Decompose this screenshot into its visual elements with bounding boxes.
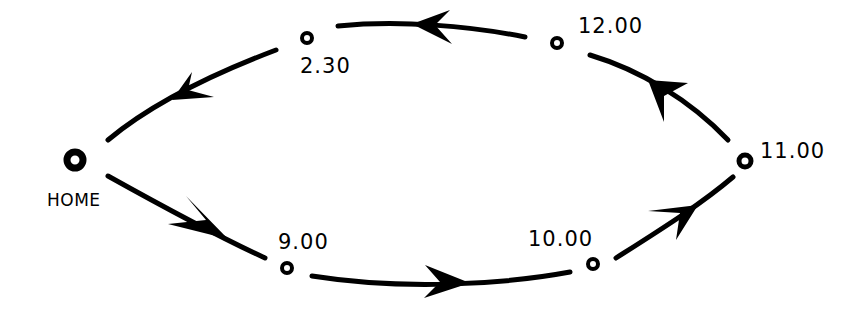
- label-230: 2.30: [300, 56, 351, 77]
- arrow-icon-900-to-1000: [424, 265, 470, 298]
- node-1100-icon: [739, 155, 751, 167]
- node-1200-icon: [552, 38, 562, 48]
- node-900-icon: [282, 263, 292, 273]
- edges: [108, 10, 733, 298]
- label-1100: 11.00: [760, 141, 825, 162]
- label-1200: 12.00: [578, 16, 643, 37]
- route-diagram: [0, 0, 860, 323]
- label-1000: 10.00: [528, 229, 593, 250]
- node-230-icon: [302, 33, 312, 43]
- edge-1000-to-1100: [616, 177, 733, 258]
- node-home-icon: [67, 152, 83, 168]
- arrow-icon-home-to-900: [168, 196, 228, 239]
- node-1000-icon: [588, 259, 598, 269]
- label-home: HOME: [47, 192, 101, 209]
- label-900: 9.00: [278, 232, 329, 253]
- edge-home-to-900: [108, 176, 265, 258]
